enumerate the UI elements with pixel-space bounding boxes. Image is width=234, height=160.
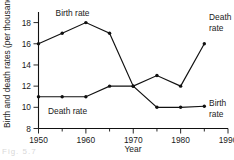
- y-tick-label: 12: [22, 81, 32, 91]
- y-tick-label: 14: [22, 60, 32, 70]
- annotation-death-right-line1: Death: [209, 12, 232, 22]
- x-tick-label: 1960: [77, 135, 96, 145]
- annotation-birth-right-line1: Birth: [209, 98, 227, 108]
- chart-series-group: [37, 21, 206, 109]
- x-tick-label: 1950: [29, 135, 48, 145]
- y-axis-title-text: Birth and death rates (per thousand): [2, 0, 12, 128]
- data-point-marker: [37, 95, 40, 98]
- y-axis-title: Birth and death rates (per thousand): [2, 0, 12, 128]
- data-point-marker: [84, 95, 87, 98]
- data-point-marker: [179, 106, 182, 109]
- series-line: [39, 44, 205, 97]
- data-point-marker: [84, 21, 87, 24]
- y-axis-ticks: [34, 23, 39, 129]
- annotation-death-inline: Death rate: [48, 106, 87, 116]
- x-axis-ticks: [39, 129, 229, 134]
- annotation-birth-right-line2: rate: [209, 109, 224, 119]
- y-tick-label: 10: [22, 102, 32, 112]
- x-tick-label: 1990: [219, 135, 234, 145]
- x-tick-label: 1980: [171, 135, 190, 145]
- data-point-marker: [203, 105, 206, 108]
- data-point-marker: [203, 42, 206, 45]
- y-tick-label: 16: [22, 39, 32, 49]
- data-point-marker: [37, 42, 40, 45]
- line-chart: Birth and death rates (per thousand) 810…: [0, 0, 234, 160]
- data-point-marker: [155, 74, 158, 77]
- data-point-marker: [179, 84, 182, 87]
- data-point-marker: [60, 31, 63, 34]
- chart-svg: Birth and death rates (per thousand) 810…: [0, 0, 234, 160]
- data-point-marker: [60, 95, 63, 98]
- series-death-rate: [37, 42, 206, 98]
- y-axis-tick-labels: 81012141618: [22, 18, 32, 134]
- series-line: [39, 23, 205, 108]
- annotation-death-right-line2: rate: [209, 23, 224, 33]
- chart-annotations: Birth rateDeath rateDeathrateBirthrate: [48, 8, 232, 119]
- x-axis-title: Year: [125, 144, 142, 154]
- caption-fragment: Fig. 5.7: [2, 147, 37, 156]
- annotation-birth-top: Birth rate: [56, 8, 90, 18]
- y-tick-label: 8: [26, 124, 31, 134]
- data-point-marker: [108, 31, 111, 34]
- data-point-marker: [155, 106, 158, 109]
- data-point-marker: [108, 84, 111, 87]
- data-point-marker: [132, 84, 135, 87]
- y-tick-label: 18: [22, 18, 32, 28]
